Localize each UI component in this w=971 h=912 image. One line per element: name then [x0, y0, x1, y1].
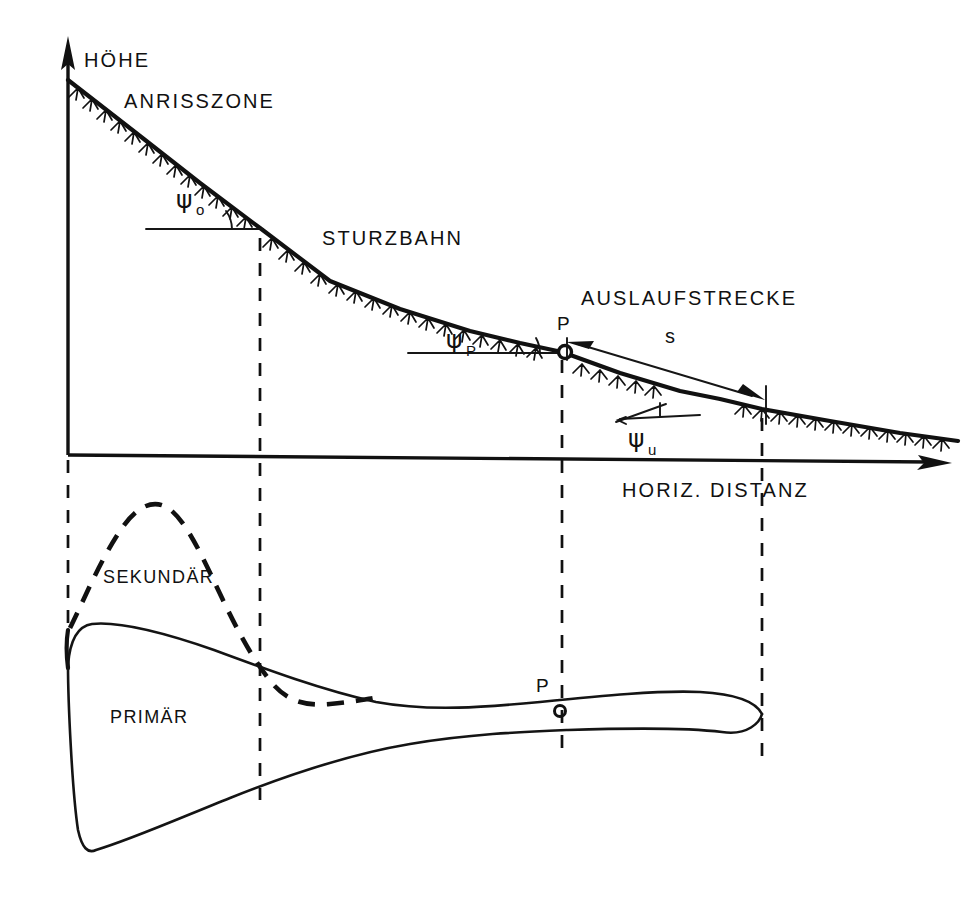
psi-0-symbol: ψ — [176, 185, 193, 214]
figure-root: ψ o ψ P ψ u P s ANRISSZONE — [0, 0, 971, 912]
point-p-label-lower: P — [536, 675, 549, 696]
psi-P-angle-marker — [408, 338, 566, 353]
psi-P-subscript: P — [466, 342, 476, 359]
label-primaer: PRIMÄR — [110, 707, 188, 727]
upper-panel: ψ o ψ P ψ u P s ANRISSZONE — [61, 36, 958, 501]
slope-profile-diagram: ψ o ψ P ψ u P s ANRISSZONE — [0, 0, 971, 912]
psi-u-angle-marker — [616, 403, 700, 424]
y-axis — [61, 36, 75, 455]
terrain-surface-line — [68, 80, 958, 441]
psi-0-subscript: o — [196, 201, 204, 218]
runout-distance-arrow — [566, 338, 766, 424]
point-p-label-upper: P — [557, 313, 570, 334]
x-axis-label: HORIZ. DISTANZ — [622, 479, 809, 501]
psi-u-symbol: ψ — [628, 424, 645, 453]
s-arrowhead-right — [737, 384, 765, 400]
runout-distance-label: s — [665, 325, 677, 347]
label-sturzbahn: STURZBAHN — [322, 227, 463, 249]
label-auslaufstrecke: AUSLAUFSTRECKE — [581, 287, 797, 309]
primaer-left-cap — [67, 630, 69, 668]
primaer-upper-boundary — [68, 624, 762, 714]
psi-P-symbol: ψ — [446, 325, 463, 354]
label-sekundaer: SEKUNDÄR — [103, 567, 214, 587]
terrain-hatching-upper — [69, 88, 542, 360]
sekundaer-curve — [70, 504, 374, 704]
x-axis — [68, 455, 952, 470]
psi-u-subscript: u — [648, 441, 656, 458]
point-p-marker-upper — [559, 346, 572, 359]
y-axis-label: HÖHE — [84, 49, 150, 71]
point-p-marker-lower — [555, 706, 566, 717]
label-anrisszone: ANRISSZONE — [124, 90, 275, 112]
lower-panel: P SEKUNDÄR PRIMÄR — [67, 504, 763, 851]
